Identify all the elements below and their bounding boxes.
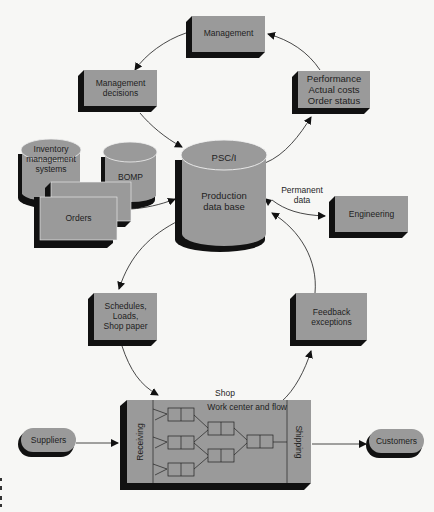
inventory-label: Inventory management systems [22,144,80,174]
bomp-label: BOMP [105,172,156,182]
orders-label: Orders [40,213,117,223]
edge-schedules-to-shop [122,346,158,395]
performance-label: Performance Actual costs Order status [298,73,370,106]
database-label: Production data base [182,190,266,212]
customers-label: Customers [369,436,424,446]
suppliers-label: Suppliers [21,435,76,445]
schedules-label: Schedules, Loads, Shop paper [94,301,157,331]
engineering-label: Engineering [335,209,408,219]
edge-db-to-performance [265,117,311,163]
feedback-label: Feedback exceptions [296,307,367,327]
edge-feedback-to-db [272,213,315,293]
edge-performance-to-management [268,34,320,70]
database-title: PSC/I [182,152,266,163]
management-decisions-label: Management decisions [84,78,157,98]
edge-management-to-decisions [135,33,186,70]
receiving-label: Receiving [135,422,145,462]
margin-marks [0,478,2,507]
management-label: Management [192,28,265,38]
edge-shop-to-feedback [281,351,311,402]
shop-subtitle: Work center and flow [195,402,287,412]
shop-box [120,400,311,490]
permanent-data-label: Permanent data [272,185,332,205]
edge-decisions-to-db [140,113,182,147]
edge-db-to-schedules [119,220,180,289]
shop-title: Shop [205,388,245,398]
shipping-label: Shipping [294,422,304,462]
